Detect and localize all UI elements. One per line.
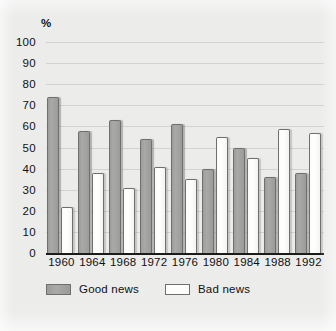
x-axis-tick-labels: 196019641968197219761980198419881992 xyxy=(46,256,324,274)
x-axis-tick-1964: 1964 xyxy=(79,256,105,268)
bar-bad-news-1984 xyxy=(247,158,259,253)
x-axis-tick-1992: 1992 xyxy=(295,256,321,268)
legend-label: Good news xyxy=(79,283,139,295)
bar-good-news-1988 xyxy=(264,177,276,253)
bar-bad-news-1992 xyxy=(309,133,321,253)
bar-group-1988 xyxy=(264,42,290,253)
legend-swatch-bad xyxy=(165,284,190,295)
bar-bad-news-1960 xyxy=(61,207,73,253)
y-axis-tick-0: 0 xyxy=(29,247,36,259)
x-axis-tick-1976: 1976 xyxy=(172,256,198,268)
legend-item-good-news: Good news xyxy=(46,283,139,295)
bar-good-news-1976 xyxy=(171,124,183,253)
y-axis-tick-50: 50 xyxy=(23,142,36,154)
y-axis-tick-80: 80 xyxy=(23,78,36,90)
x-axis-tick-1988: 1988 xyxy=(264,256,290,268)
bar-group-1980 xyxy=(202,42,228,253)
bar-bad-news-1968 xyxy=(123,188,135,253)
bar-bad-news-1988 xyxy=(278,129,290,253)
bar-good-news-1968 xyxy=(109,120,121,253)
x-axis-baseline xyxy=(46,253,324,255)
y-axis-tick-60: 60 xyxy=(23,120,36,132)
bar-group-1976 xyxy=(171,42,197,253)
bar-good-news-1960 xyxy=(47,97,59,253)
bar-chart-figure: % 1009080706050403020100 196019641968197… xyxy=(0,0,336,331)
legend-item-bad-news: Bad news xyxy=(165,283,250,295)
bar-bad-news-1980 xyxy=(216,137,228,253)
legend-swatch-good xyxy=(46,284,71,295)
y-axis-tick-labels: 1009080706050403020100 xyxy=(0,42,42,253)
bar-good-news-1984 xyxy=(233,148,245,254)
bar-bad-news-1972 xyxy=(154,167,166,254)
y-axis-tick-40: 40 xyxy=(23,163,36,175)
bar-group-1992 xyxy=(295,42,321,253)
bar-good-news-1992 xyxy=(295,173,307,253)
y-axis-tick-10: 10 xyxy=(23,226,36,238)
x-axis-tick-1968: 1968 xyxy=(110,256,136,268)
bar-group-1972 xyxy=(140,42,166,253)
legend-label: Bad news xyxy=(198,283,250,295)
y-axis-tick-100: 100 xyxy=(16,36,36,48)
bar-group-1964 xyxy=(78,42,104,253)
bar-good-news-1980 xyxy=(202,169,214,253)
x-axis-tick-1960: 1960 xyxy=(48,256,74,268)
x-axis-tick-1972: 1972 xyxy=(141,256,167,268)
x-axis-tick-1980: 1980 xyxy=(203,256,229,268)
chart-legend: Good newsBad news xyxy=(46,283,266,295)
bar-group-1984 xyxy=(233,42,259,253)
bar-bad-news-1964 xyxy=(92,173,104,253)
y-axis-tick-70: 70 xyxy=(23,99,36,111)
bar-bad-news-1976 xyxy=(185,179,197,253)
plot-area xyxy=(46,42,324,253)
y-axis-tick-20: 20 xyxy=(23,205,36,217)
bar-group-1960 xyxy=(47,42,73,253)
bar-group-1968 xyxy=(109,42,135,253)
x-axis-tick-1984: 1984 xyxy=(234,256,260,268)
bar-good-news-1972 xyxy=(140,139,152,253)
y-axis-unit-label: % xyxy=(41,17,51,29)
bar-good-news-1964 xyxy=(78,131,90,253)
y-axis-tick-30: 30 xyxy=(23,184,36,196)
y-axis-tick-90: 90 xyxy=(23,57,36,69)
